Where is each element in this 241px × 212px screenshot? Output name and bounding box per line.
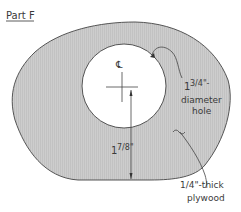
hole-diameter-frac: 3/4"- bbox=[190, 79, 210, 88]
hole-label-line2: diameter bbox=[181, 95, 222, 105]
part-title: Part F bbox=[6, 10, 35, 21]
material-label-line2: plywood bbox=[187, 193, 225, 203]
part-f-diagram: Part F ℄ 1 3/4"- diameter hole 1 7/8" 1/… bbox=[0, 0, 241, 212]
hole-label-line3: hole bbox=[192, 106, 212, 116]
dimension-frac: 7/8" bbox=[117, 143, 134, 152]
centerline-symbol: ℄ bbox=[115, 59, 123, 70]
material-label-line1: 1/4"-thick bbox=[180, 180, 225, 190]
